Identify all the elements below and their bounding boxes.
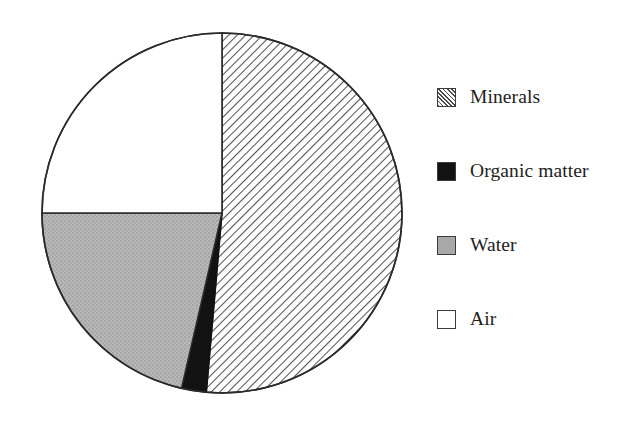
pie-chart-figure: Minerals Organic matter Water Air bbox=[0, 0, 629, 421]
pie-chart-svg bbox=[0, 0, 430, 421]
hatch-swatch-icon bbox=[437, 88, 456, 107]
legend-item-label: Organic matter bbox=[470, 161, 589, 181]
legend-item-water[interactable]: Water bbox=[432, 208, 628, 282]
pie-slices bbox=[42, 33, 402, 393]
legend-item-label: Minerals bbox=[470, 87, 540, 107]
pie-slice-air[interactable] bbox=[42, 33, 222, 213]
gray-swatch-icon bbox=[437, 236, 456, 255]
black-swatch-icon bbox=[437, 162, 456, 181]
legend-item-air[interactable]: Air bbox=[432, 282, 628, 356]
chart-legend: Minerals Organic matter Water Air bbox=[432, 60, 628, 350]
pie-chart-plot-area bbox=[0, 0, 430, 421]
white-swatch-icon bbox=[437, 310, 456, 329]
legend-item-label: Water bbox=[470, 235, 517, 255]
legend-item-label: Air bbox=[470, 309, 496, 329]
legend-item-organic-matter[interactable]: Organic matter bbox=[432, 134, 628, 208]
legend-item-minerals[interactable]: Minerals bbox=[432, 60, 628, 134]
pie-slice-minerals[interactable] bbox=[206, 33, 402, 393]
